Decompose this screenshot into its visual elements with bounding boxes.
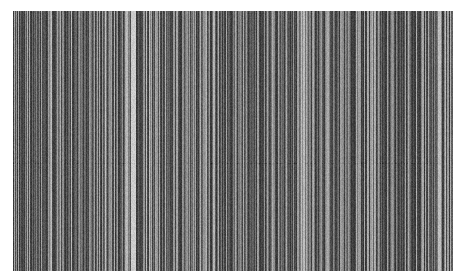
- stripe-image: [13, 11, 453, 271]
